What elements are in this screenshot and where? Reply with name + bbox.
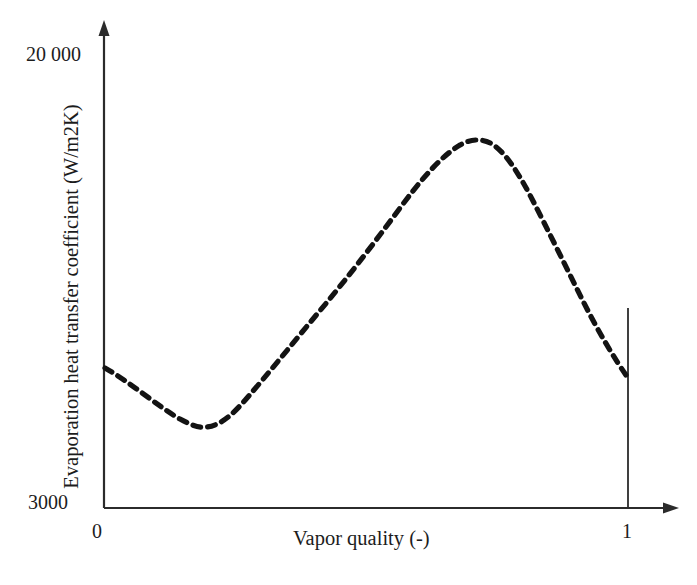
- y-axis-arrow-icon: [99, 20, 110, 36]
- x-tick-label-one: 1: [622, 521, 632, 541]
- chart-canvas: [0, 0, 697, 585]
- x-tick-label-zero: 0: [92, 521, 102, 541]
- evaporation-htc-chart: 20 000 3000 0 1 Vapor quality (-) Evapor…: [0, 0, 697, 585]
- y-tick-label-top: 20 000: [26, 44, 81, 64]
- x-axis-title: Vapor quality (-): [293, 527, 430, 550]
- y-axis-title: Evaporation heat transfer coefficient (W…: [60, 87, 83, 507]
- x-axis-arrow-icon: [663, 503, 679, 514]
- evaporation-htc-curve: [105, 140, 628, 427]
